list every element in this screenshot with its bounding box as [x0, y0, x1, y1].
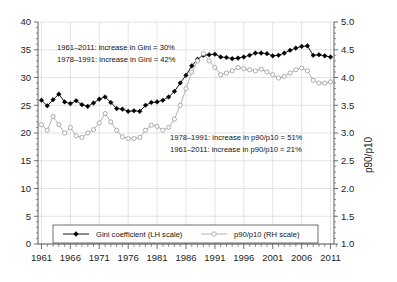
data-point-marker [126, 136, 130, 140]
data-point-marker [230, 69, 234, 73]
x-axis-tick-label: 1991 [204, 252, 225, 263]
data-point-marker [259, 67, 263, 71]
y-axis-left-tick-label: 25 [20, 100, 31, 111]
y-axis-right-tick-label: 2.5 [341, 155, 354, 166]
data-point-marker [328, 80, 332, 84]
y-axis-left-tick-label: 10 [20, 183, 31, 194]
data-point-marker [323, 81, 327, 85]
data-point-marker [190, 70, 194, 74]
data-point-marker [207, 59, 211, 63]
y-axis-left-tick-label: 35 [20, 44, 31, 55]
y-axis-right-tick-label: 3.5 [341, 100, 354, 111]
data-point-marker [103, 111, 107, 115]
data-point-marker [91, 128, 95, 132]
chart-legend: Gini coefficient (LH scale)p90/p10 (RH s… [53, 225, 318, 243]
data-point-marker [138, 135, 142, 139]
inequality-line-chart: 1961196619711976198119861991199620012006… [0, 0, 397, 282]
data-point-marker [155, 124, 159, 128]
data-point-marker [149, 123, 153, 127]
data-point-marker [132, 136, 136, 140]
data-point-marker [317, 81, 321, 85]
y-axis-left-tick-label: 30 [20, 72, 31, 83]
annotation-p90-1978-1991: 1978–1991: increase in p90/p10 = 51% [170, 133, 303, 142]
x-axis-tick-label: 1981 [147, 252, 168, 263]
annotation-gini-1961-2011: 1961–2011: increase in Gini = 30% [57, 43, 175, 52]
y-axis-right-tick-labels: 1.01.52.02.53.03.54.04.55.0 [341, 16, 354, 249]
y-axis-right-tick-label: 4.0 [341, 72, 354, 83]
legend-marker [212, 232, 216, 236]
y-axis-right-tick-label: 1.5 [341, 211, 354, 222]
data-point-marker [271, 73, 275, 77]
y-axis-right-tick-label: 5.0 [341, 16, 354, 27]
x-axis-tick-label: 2006 [291, 252, 312, 263]
data-point-marker [305, 69, 309, 73]
data-point-marker [97, 121, 101, 125]
data-point-marker [195, 59, 199, 63]
y-axis-left-tick-label: 15 [20, 155, 31, 166]
data-point-marker [184, 87, 188, 91]
data-point-marker [242, 67, 246, 71]
data-point-marker [115, 128, 119, 132]
data-point-marker [253, 69, 257, 73]
data-point-marker [45, 128, 49, 132]
data-point-marker [276, 76, 280, 80]
data-point-marker [178, 103, 182, 107]
data-point-marker [167, 125, 171, 129]
annotation-p90-1961-2011: 1961–2011: increase in p90/p10 = 21% [170, 145, 302, 154]
y-axis-right-title-text: p90/p10 [363, 136, 374, 173]
x-axis-tick-label: 1971 [89, 252, 110, 263]
data-point-marker [161, 128, 165, 132]
data-point-marker [86, 131, 90, 135]
data-point-marker [68, 125, 72, 129]
data-point-marker [282, 74, 286, 78]
chart-container: 1961196619711976198119861991199620012006… [0, 0, 397, 282]
data-point-marker [62, 131, 66, 135]
data-point-marker [213, 65, 217, 69]
data-point-marker [265, 70, 269, 74]
y-axis-left-tick-label: 20 [20, 127, 31, 138]
data-point-marker [236, 65, 240, 69]
x-axis-tick-label: 1986 [175, 252, 196, 263]
legend-label: Gini coefficient (LH scale) [96, 230, 183, 239]
y-axis-right-title: p90/p10 [363, 136, 374, 173]
x-axis-tick-label: 1961 [31, 252, 52, 263]
data-point-marker [51, 114, 55, 118]
data-point-marker [120, 135, 124, 139]
y-axis-left-tick-label: 0 [26, 238, 31, 249]
y-axis-right-tick-label: 2.0 [341, 183, 354, 194]
y-axis-right-tick-label: 1.0 [341, 238, 354, 249]
data-point-marker [74, 134, 78, 138]
data-point-marker [201, 52, 205, 56]
data-point-marker [294, 68, 298, 72]
y-axis-right-tick-label: 3.0 [341, 127, 354, 138]
data-point-marker [288, 71, 292, 75]
x-axis-tick-labels: 1961196619711976198119861991199620012006… [31, 252, 341, 263]
data-point-marker [57, 123, 61, 127]
y-axis-left-tick-label: 40 [20, 16, 31, 27]
annotation-gini-1978-1991: 1978–1991: increase in Gini = 42% [57, 55, 176, 64]
data-point-marker [143, 128, 147, 132]
x-axis-tick-label: 1966 [60, 252, 81, 263]
data-point-marker [80, 135, 84, 139]
y-axis-right-tick-label: 4.5 [341, 44, 354, 55]
data-point-marker [39, 123, 43, 127]
data-point-marker [224, 71, 228, 75]
x-axis-tick-label: 1976 [118, 252, 139, 263]
y-axis-left-tick-label: 5 [26, 211, 31, 222]
x-axis-tick-label: 2001 [262, 252, 283, 263]
legend-label: p90/p10 (RH scale) [234, 230, 300, 239]
data-point-marker [219, 73, 223, 77]
data-point-marker [247, 68, 251, 72]
data-point-marker [172, 117, 176, 121]
data-point-marker [109, 120, 113, 124]
x-axis-tick-label: 1996 [233, 252, 254, 263]
x-axis-tick-label: 2011 [320, 252, 340, 263]
data-point-marker [300, 66, 304, 70]
data-point-marker [311, 78, 315, 82]
